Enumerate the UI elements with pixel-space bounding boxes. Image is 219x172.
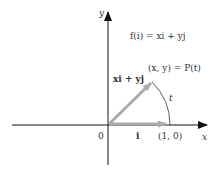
y-axis-label: y: [99, 9, 104, 18]
diagram-canvas: [0, 0, 219, 172]
arc-t: [152, 82, 170, 125]
vector-label: xi + yj: [113, 75, 144, 84]
vector-xi-yj: [109, 83, 151, 124]
point-label: (x, y) = P(t): [148, 64, 201, 73]
unit-vector-label: i: [136, 132, 139, 141]
equation-top: f(i) = xi + yj: [130, 32, 186, 41]
arc-label: t: [169, 94, 173, 103]
unit-point-label: (1, 0): [158, 132, 182, 141]
x-axis-label: x: [202, 133, 207, 142]
origin-label: 0: [98, 132, 104, 141]
